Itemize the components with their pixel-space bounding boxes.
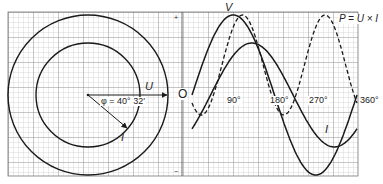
phase-angle-label: φ = 40° 32′	[100, 97, 146, 106]
deg-180-label: 180°	[269, 96, 290, 105]
deg-360-label: 360°	[360, 96, 379, 105]
deg-90-label: 90°	[226, 96, 242, 105]
deg-270-label: 270°	[308, 96, 329, 105]
axis-plus-label: +	[174, 14, 178, 21]
voltage-wave-label: V	[225, 2, 232, 13]
current-wave-label: I	[325, 124, 328, 135]
phasor-waveform-diagram	[0, 0, 383, 184]
axis-minus-label: −	[174, 168, 178, 175]
origin-label: O	[178, 88, 187, 100]
power-wave-label: P = U × I	[338, 14, 379, 24]
current-phasor-label: I	[121, 132, 124, 143]
voltage-phasor-label: U	[145, 81, 153, 92]
